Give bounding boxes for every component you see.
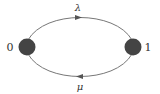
diagram-svg: 0 1 λ μ bbox=[0, 0, 160, 94]
markov-chain-diagram: 0 1 λ μ bbox=[0, 0, 160, 94]
node-0 bbox=[19, 39, 36, 56]
arrow-left-icon bbox=[76, 74, 83, 79]
edge-1-to-0-label: μ bbox=[77, 81, 84, 92]
node-1 bbox=[125, 39, 142, 56]
node-1-label: 1 bbox=[145, 41, 152, 54]
edge-0-to-1-label: λ bbox=[74, 2, 81, 13]
edge-0-to-1 bbox=[28, 18, 132, 41]
edge-1-to-0 bbox=[28, 54, 132, 77]
node-0-label: 0 bbox=[7, 41, 14, 54]
arrow-right-icon bbox=[75, 15, 82, 20]
